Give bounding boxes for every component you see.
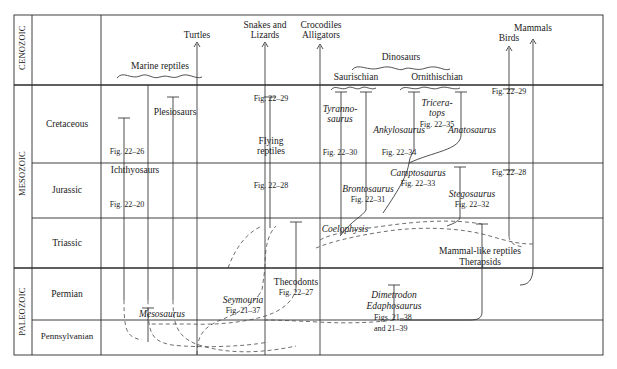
taxon-label-flying-reptiles: Flying reptiles (241, 136, 301, 157)
figure-ref-21-38: Figs. 21–38 (374, 314, 436, 323)
geologic-range-chart: CENOZOIC MESOZOIC PALEOZOIC Cretaceous J… (0, 0, 617, 369)
period-label-cretaceous: Cretaceous (33, 119, 101, 129)
brace-dinosaurs (352, 67, 450, 70)
figure-ref-22-34: Fig. 22–34 (368, 149, 430, 158)
figure-ref-22-35: Fig. 22–35 (406, 121, 468, 130)
chart-frame (14, 15, 603, 355)
period-label-permian: Permian (33, 289, 101, 299)
top-label-marine-reptiles: Marine reptiles (110, 61, 210, 71)
top-label-crocodiles-alligators: Crocodiles Alligators (274, 20, 368, 41)
taxon-label-plesiosaurs: Plesiosaurs (135, 107, 215, 117)
converge-stegosaurus-stem (447, 218, 460, 226)
taxon-label-stegosaurus: Stegosaurus (432, 189, 512, 199)
brace-ornithischian (400, 87, 460, 90)
brace-marine-reptiles (117, 75, 202, 78)
taxon-label-coelophysis: Coelophysis (307, 224, 383, 234)
taxon-label-mesosaurus: Mesosaurus (124, 309, 200, 319)
taxon-label-edaphosaurus: Edaphosaurus (350, 301, 438, 311)
figure-ref-22-33: Fig. 22–33 (387, 180, 449, 189)
era-label-paleozoic: PALEOZOIC (18, 266, 27, 358)
figure-ref-22-31: Fig. 22–31 (337, 196, 399, 205)
top-label-dinosaurs: Dinosaurs (355, 52, 447, 62)
period-label-jurassic: Jurassic (33, 185, 101, 195)
mammal-root-link (520, 268, 533, 285)
figure-ref-22-28-flying: Fig. 22–28 (240, 182, 302, 191)
era-label-mesozoic: MESOZOIC (18, 119, 27, 229)
taxon-label-mammal-like-reptiles: Mammal-like reptiles (420, 246, 540, 256)
period-label-triassic: Triassic (33, 238, 101, 248)
figure-ref-22-20: Fig. 22–20 (96, 201, 158, 210)
taxon-label-therapsids: Therapsids (440, 257, 520, 267)
figure-ref-22-26: Fig. 22–26 (96, 148, 158, 157)
figure-ref-21-37: Fig. 21–37 (212, 307, 274, 316)
period-label-pennsylvanian: Pennsylvanian (31, 332, 103, 342)
taxon-label-thecodonts: Thecodonts (258, 277, 334, 287)
top-label-birds: Birds (474, 33, 544, 43)
era-label-cenozoic: CENOZOIC (18, 18, 27, 78)
dashed-snakes-root (265, 226, 276, 268)
taxon-label-tyrannosaurus: Tyranno- saurus (304, 104, 376, 125)
inferred-lineage-lines (124, 221, 533, 355)
taxon-label-triceratops: Tricera- tops (407, 98, 467, 119)
figure-ref-22-30: Fig. 22–30 (309, 149, 371, 158)
taxon-label-ichthyosaurs: Ichthyosaurs (95, 165, 175, 175)
figure-ref-22-29-pterosaur: Fig. 22–29 (240, 95, 302, 104)
top-label-mammals: Mammals (495, 23, 571, 33)
figure-ref-22-29-birds: Fig. 22–29 (478, 88, 540, 97)
taxon-label-dimetrodon: Dimetrodon (354, 290, 434, 300)
taxon-label-camptosaurus: Camptosaurus (375, 168, 461, 178)
top-label-saurischian: Saurischian (314, 72, 398, 82)
figure-ref-22-32: Fig. 22–32 (441, 201, 503, 210)
top-label-ornithischian: Ornithischian (391, 72, 483, 82)
dashed-seymouria-up (228, 226, 262, 268)
figure-ref-22-28-mammals: Fig. 22–28 (478, 169, 540, 178)
brace-saurischian (331, 87, 376, 90)
figure-ref-22-27: Fig. 22–27 (265, 289, 327, 298)
figure-ref-21-39: and 21–39 (374, 325, 436, 334)
